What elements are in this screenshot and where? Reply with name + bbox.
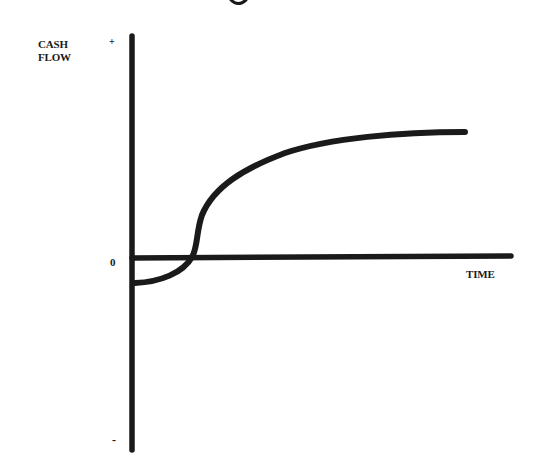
- y-axis-label: CASH FLOW: [38, 38, 71, 64]
- y-axis-label-line1: CASH: [38, 38, 71, 51]
- x-axis-label: TIME: [466, 268, 495, 281]
- y-positive-marker: +: [109, 35, 115, 48]
- chart-canvas: [0, 0, 540, 472]
- y-zero-marker: 0: [110, 256, 115, 269]
- cropped-caption-glyph: [231, 0, 246, 4]
- y-axis-label-line2: FLOW: [38, 51, 71, 64]
- y-negative-marker: -: [112, 434, 116, 447]
